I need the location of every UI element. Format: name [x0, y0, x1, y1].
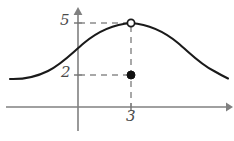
graph-figure: 5 2 3 — [0, 0, 234, 141]
x-axis-arrowhead — [226, 103, 233, 112]
y-axis-label-5: 5 — [60, 13, 70, 28]
x-axis-label-3: 3 — [126, 109, 136, 124]
graph-canvas — [0, 0, 234, 141]
y-axis-label-2: 2 — [61, 65, 71, 80]
function-curve — [10, 23, 228, 79]
y-axis-arrowhead — [74, 7, 83, 15]
open-circle-point — [127, 19, 134, 26]
filled-dot-point — [127, 71, 135, 79]
